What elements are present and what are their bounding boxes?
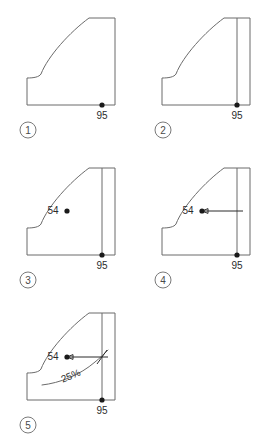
panel-3: 54 95 3 xyxy=(20,168,115,288)
panel-4-step-number: 4 xyxy=(160,275,166,286)
panel-5-label-95: 95 xyxy=(96,405,108,416)
panel-1-outline xyxy=(27,18,115,105)
panel-4-label-95: 95 xyxy=(231,260,243,271)
figure-canvas: 95 1 95 2 54 95 3 54 95 4 xyxy=(0,0,271,438)
panel-3-lower-point xyxy=(99,252,104,257)
panel-2: 95 2 xyxy=(155,18,250,138)
panel-2-step-number: 2 xyxy=(160,125,166,136)
panel-4-upper-point xyxy=(199,208,204,213)
panel-2-lower-point xyxy=(234,102,239,107)
panel-1-label-95: 95 xyxy=(96,110,108,121)
panel-3-label-54: 54 xyxy=(47,205,59,216)
panel-1: 95 1 xyxy=(20,18,115,138)
panel-5-label-percent: 25% xyxy=(59,367,82,385)
panel-5: 54 25% 95 5 xyxy=(20,313,115,433)
panel-3-upper-point xyxy=(64,208,69,213)
panel-5-lower-point xyxy=(99,397,104,402)
panel-5-label-54: 54 xyxy=(47,351,59,362)
panel-2-label-95: 95 xyxy=(231,110,243,121)
panel-1-lower-point xyxy=(99,102,104,107)
panel-4-label-54: 54 xyxy=(182,205,194,216)
panel-3-step-number: 3 xyxy=(25,275,31,286)
panel-5-upper-point xyxy=(64,354,69,359)
panel-4: 54 95 4 xyxy=(155,168,250,288)
panel-5-step-number: 5 xyxy=(25,420,31,431)
panel-4-lower-point xyxy=(234,252,239,257)
panel-3-label-95: 95 xyxy=(96,260,108,271)
panel-1-step-number: 1 xyxy=(25,125,31,136)
